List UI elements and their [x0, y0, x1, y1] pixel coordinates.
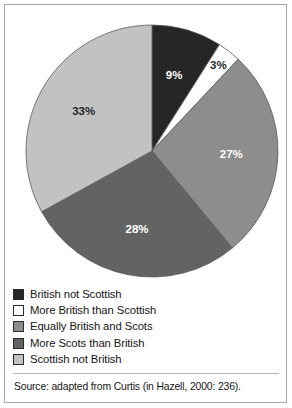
pie-slice-value-label: 28%	[126, 223, 149, 235]
legend-item-more-scots-than-british[interactable]: More Scots than British	[13, 335, 278, 351]
pie-chart-area: 9%3%27%28%33%	[5, 5, 286, 280]
legend-swatch-icon	[13, 289, 24, 300]
legend-item-label: British not Scottish	[30, 289, 122, 300]
pie-slice-value-label: 33%	[72, 105, 95, 117]
legend-item-equally-british-and-scots[interactable]: Equally British and Scots	[13, 319, 278, 335]
legend-swatch-icon	[13, 338, 24, 349]
pie-slice-value-label: 9%	[166, 69, 183, 81]
legend-swatch-icon	[13, 305, 24, 316]
legend-item-british-not-scottish[interactable]: British not Scottish	[13, 286, 278, 302]
legend-swatch-icon	[13, 354, 24, 365]
pie-chart-svg: 9%3%27%28%33%	[5, 5, 286, 280]
legend-item-scottish-not-british[interactable]: Scottish not British	[13, 352, 278, 368]
source-divider	[13, 373, 279, 374]
chart-legend: British not Scottish More British than S…	[13, 286, 278, 368]
legend-item-label: Equally British and Scots	[30, 321, 152, 332]
source-note: Source: adapted from Curtis (in Hazell, …	[14, 381, 241, 392]
legend-item-label: Scottish not British	[30, 354, 122, 365]
legend-swatch-icon	[13, 321, 24, 332]
pie-slice-value-label: 27%	[220, 148, 243, 160]
legend-item-label: More British than Scottish	[30, 305, 156, 316]
figure-frame: 9%3%27%28%33% British not Scottish More …	[4, 4, 287, 403]
legend-item-label: More Scots than British	[30, 338, 144, 349]
pie-slice-value-label: 3%	[210, 59, 227, 71]
legend-item-more-british-than-scottish[interactable]: More British than Scottish	[13, 302, 278, 318]
